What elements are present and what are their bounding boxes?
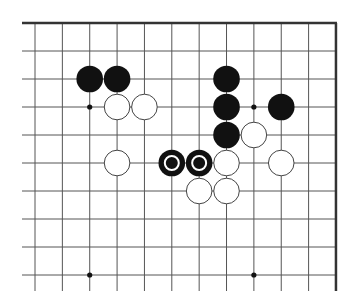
black-stone bbox=[213, 122, 240, 149]
white-stone bbox=[214, 150, 240, 176]
white-stone bbox=[186, 178, 212, 204]
marked-black-stone bbox=[186, 150, 213, 177]
white-stone bbox=[241, 122, 267, 148]
white-stone bbox=[268, 150, 294, 176]
white-stone bbox=[104, 94, 130, 120]
star-point bbox=[251, 104, 256, 109]
black-stone bbox=[213, 66, 240, 93]
go-board-diagram bbox=[0, 0, 360, 307]
black-stone bbox=[268, 94, 295, 121]
black-stone bbox=[76, 66, 103, 93]
white-stone bbox=[104, 150, 130, 176]
star-point bbox=[87, 104, 92, 109]
star-point bbox=[251, 272, 256, 277]
white-stone bbox=[214, 178, 240, 204]
black-stone bbox=[213, 94, 240, 121]
white-stone bbox=[132, 94, 158, 120]
black-stone bbox=[104, 66, 131, 93]
marked-black-stone bbox=[159, 150, 186, 177]
star-point bbox=[87, 272, 92, 277]
go-board bbox=[0, 0, 360, 307]
